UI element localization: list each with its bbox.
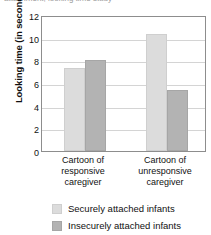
- bar-secure-group-1: [146, 34, 167, 151]
- legend-label-secure: Securely attached infants: [68, 204, 175, 214]
- plot-area: 024681012: [41, 16, 206, 152]
- legend-swatch-secure-icon: [52, 204, 62, 214]
- legend-label-insecure: Insecurely attached infants: [68, 221, 181, 231]
- y-tick-label-2: 2: [17, 126, 39, 135]
- cropped-caption: attachment, looking time study: [4, 0, 154, 6]
- x-category-label-1-line-2: caregiver: [125, 177, 205, 188]
- x-category-label-0: Cartoon of responsive caregiver: [43, 155, 123, 188]
- x-axis-category-labels: Cartoon of responsive caregiver Cartoon …: [41, 155, 206, 195]
- y-tick-label-4: 4: [17, 103, 39, 112]
- x-category-label-1: Cartoon of unresponsive caregiver: [125, 155, 205, 188]
- y-tick-label-8: 8: [17, 58, 39, 67]
- y-tick-label-0: 0: [17, 149, 39, 158]
- x-category-label-0-line-2: caregiver: [43, 177, 123, 188]
- chart-legend: Securely attached infants Insecurely att…: [52, 201, 211, 235]
- y-tick-label-12: 12: [17, 13, 39, 22]
- bar-secure-group-0: [64, 68, 85, 151]
- y-tick-label-10: 10: [17, 35, 39, 44]
- bar-insecure-group-0: [85, 60, 106, 151]
- x-category-label-1-line-0: Cartoon of: [125, 155, 205, 166]
- x-category-label-1-line-1: unresponsive: [125, 166, 205, 177]
- x-category-label-0-line-0: Cartoon of: [43, 155, 123, 166]
- cropped-caption-text: attachment, looking time study: [4, 0, 154, 3]
- x-category-label-0-line-1: responsive: [43, 166, 123, 177]
- legend-item-secure: Securely attached infants: [52, 201, 211, 217]
- chart-figure: attachment, looking time study Looking t…: [0, 0, 211, 235]
- y-tick-label-6: 6: [17, 81, 39, 90]
- legend-swatch-insecure-icon: [52, 221, 62, 231]
- bar-insecure-group-1: [167, 90, 188, 151]
- bar-group-container: [42, 17, 205, 151]
- legend-item-insecure: Insecurely attached infants: [52, 218, 211, 234]
